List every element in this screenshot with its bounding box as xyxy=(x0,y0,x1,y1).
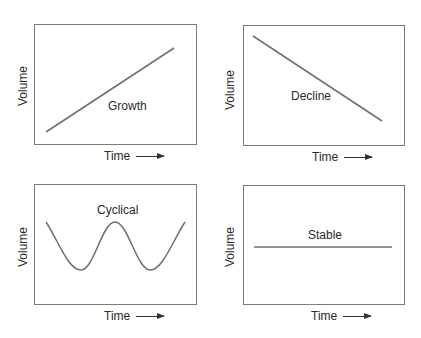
trend-lines xyxy=(0,0,421,338)
decline-line xyxy=(253,36,382,121)
cyclical-line xyxy=(46,222,185,270)
growth-line xyxy=(46,48,174,132)
